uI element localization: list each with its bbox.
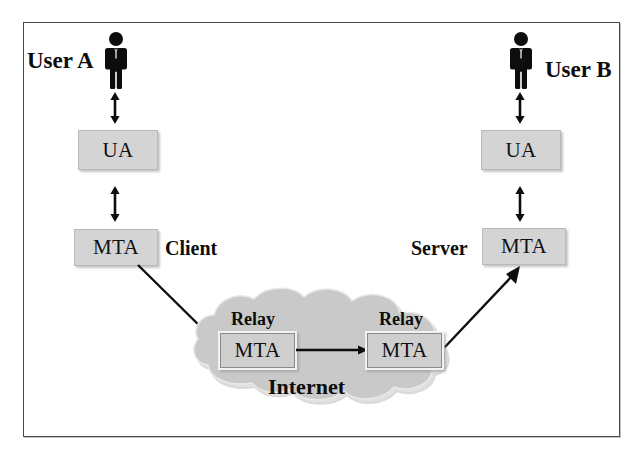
user-a-person-icon bbox=[102, 31, 130, 91]
ua-left-label: UA bbox=[102, 138, 133, 163]
mta-relay-1-label: MTA bbox=[234, 338, 280, 363]
connector-user-b-to-ua-right bbox=[513, 92, 527, 124]
mta-relay-2-box[interactable]: MTA bbox=[365, 331, 444, 370]
internet-cloud-label: Internet bbox=[268, 374, 345, 400]
mta-relay-2-label: MTA bbox=[381, 338, 427, 363]
connector-user-a-to-ua-left bbox=[108, 92, 122, 124]
user-b-person-icon bbox=[507, 31, 535, 91]
client-role-label: Client bbox=[165, 237, 217, 260]
mta-server-box[interactable]: MTA bbox=[482, 228, 566, 265]
connector-relay-1-to-relay-2 bbox=[296, 343, 368, 357]
user-a-label: User A bbox=[27, 48, 94, 74]
ua-right-box[interactable]: UA bbox=[481, 130, 561, 170]
ua-left-box[interactable]: UA bbox=[78, 130, 158, 170]
ua-right-label: UA bbox=[505, 138, 536, 163]
mta-relay-1-box[interactable]: MTA bbox=[218, 331, 297, 370]
connector-ua-left-to-mta-client bbox=[108, 186, 122, 222]
server-role-label: Server bbox=[411, 237, 468, 260]
user-b-label: User B bbox=[545, 57, 612, 83]
connector-ua-right-to-mta-server bbox=[513, 186, 527, 222]
diagram-canvas: User A UA MTA Client User B bbox=[0, 0, 639, 449]
mta-client-label: MTA bbox=[93, 235, 139, 260]
mta-server-label: MTA bbox=[501, 234, 547, 259]
relay-caption-2-label: Relay bbox=[379, 309, 423, 330]
relay-caption-1-label: Relay bbox=[231, 309, 275, 330]
